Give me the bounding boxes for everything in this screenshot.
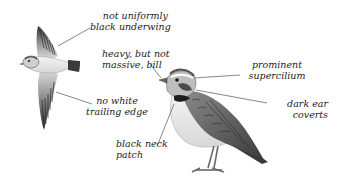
flying-bird [19, 26, 80, 130]
illustration: not uniformly black underwing no white t… [0, 0, 348, 179]
perched-bird [159, 70, 268, 172]
label-neck-patch: black neck patch [116, 138, 168, 160]
label-ear-coverts: dark ear coverts [268, 98, 328, 120]
label-trailing-edge: no white trailing edge [82, 95, 152, 117]
label-bill: heavy, but not massive, bill [102, 48, 170, 70]
birds-drawing [0, 0, 348, 179]
label-supercilium: prominent supercilium [244, 59, 310, 81]
label-underwing: not uniformly black underwing [90, 10, 168, 32]
